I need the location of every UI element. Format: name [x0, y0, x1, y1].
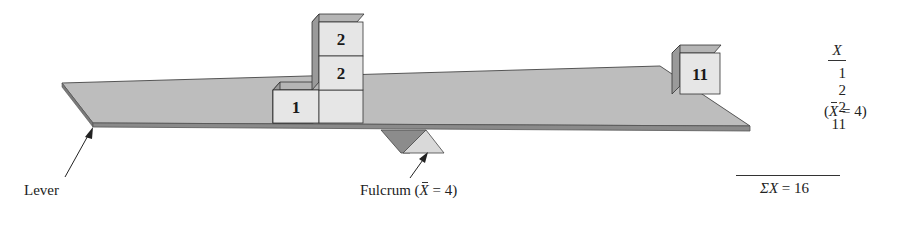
lever-arrow-icon: [65, 127, 93, 177]
svg-text:2: 2: [337, 30, 346, 49]
column-header: X: [828, 42, 846, 61]
svg-text:1: 1: [292, 98, 301, 117]
score-value: 2: [800, 82, 846, 99]
weight-box-2-bottom: 2: [319, 56, 363, 123]
mean-note: (X = 4): [824, 103, 867, 120]
fulcrum-label-prefix: Fulcrum (: [360, 182, 420, 198]
score-value: 1: [800, 65, 846, 82]
fulcrum: [381, 130, 444, 153]
weight-box-1: 1: [273, 82, 326, 123]
lever-plank: [62, 66, 750, 131]
mean-symbol: X: [420, 183, 429, 198]
sum-row: ΣX = 16: [760, 180, 809, 197]
fulcrum-label-suffix: = 4): [429, 182, 457, 198]
sum-value: = 16: [778, 180, 809, 196]
mean-note-suffix: = 4): [838, 103, 866, 119]
svg-text:11: 11: [692, 65, 708, 84]
weight-box-11: 11: [672, 45, 721, 94]
svg-text:2: 2: [337, 64, 346, 83]
sum-divider: [736, 175, 840, 176]
sum-symbol: ΣX: [760, 180, 778, 196]
fulcrum-arrow-icon: [410, 152, 428, 178]
fulcrum-label: Fulcrum (X = 4): [360, 183, 457, 198]
mean-symbol: X: [829, 103, 838, 120]
lever-label: Lever: [24, 183, 59, 198]
